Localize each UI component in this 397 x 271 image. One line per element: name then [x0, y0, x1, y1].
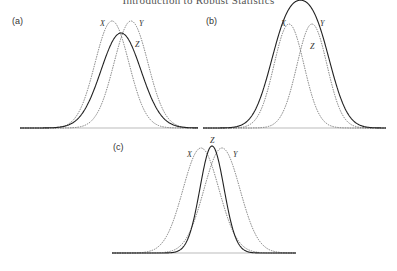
panel-b: XYZ(b)	[203, 0, 386, 128]
density-figure: XYZ(a) XYZ(b) XYZ(c)	[0, 0, 397, 271]
curve-label-y: Y	[139, 19, 145, 28]
panel-label: (c)	[113, 142, 124, 152]
curve-y	[203, 24, 386, 128]
panel-label: (a)	[12, 16, 23, 26]
panel-a: XYZ(a)	[12, 16, 198, 128]
curve-label-z: Z	[210, 136, 215, 145]
panel-c: XYZ(c)	[112, 136, 296, 253]
curve-label-z: Z	[135, 40, 140, 49]
curve-label-x: X	[186, 150, 193, 159]
curve-z	[203, 0, 386, 128]
curve-label-y: Y	[233, 150, 239, 159]
curve-x	[20, 21, 198, 128]
curve-x	[203, 24, 386, 128]
curve-y	[112, 148, 296, 253]
curve-y	[20, 21, 198, 128]
curve-z	[112, 146, 296, 253]
curve-label-z: Z	[310, 42, 315, 51]
curve-label-y: Y	[320, 19, 326, 28]
curve-label-x: X	[99, 19, 106, 28]
panel-label: (b)	[206, 16, 217, 26]
curve-x	[112, 148, 296, 253]
